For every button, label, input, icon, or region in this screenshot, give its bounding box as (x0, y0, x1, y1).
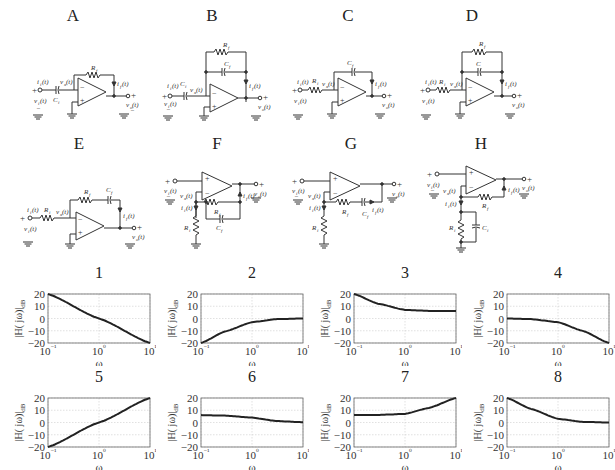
svg-text:20: 20 (493, 392, 505, 404)
svg-text:−: − (468, 83, 473, 92)
svg-text:i: i (37, 78, 39, 86)
svg-text:(t): (t) (380, 80, 387, 88)
svg-text:i: i (372, 206, 374, 214)
svg-text:0: 0 (346, 313, 352, 325)
svg-text:(t): (t) (42, 78, 49, 86)
svg-text:i: i (49, 210, 51, 215)
svg-text:f: f (367, 214, 369, 219)
svg-text:i: i (167, 82, 169, 90)
svg-text:−10: −10 (487, 325, 505, 337)
y-axis-label: |H( jω)|dB (13, 299, 27, 337)
svg-text:f: f (484, 44, 486, 49)
svg-text:i: i (189, 228, 191, 233)
svg-text:(t): (t) (430, 78, 437, 86)
svg-text:+: + (205, 174, 210, 183)
svg-text:+: + (32, 85, 37, 95)
svg-text:(t): (t) (128, 212, 135, 220)
svg-text:+: + (333, 174, 338, 183)
circuit-a: + ii(t) vi(t) − vx(t) Ci Rf if(t) −+ + v… (32, 64, 139, 119)
svg-text:−: − (333, 189, 338, 198)
svg-text:20: 20 (493, 288, 505, 300)
svg-text:−: − (430, 187, 435, 195)
svg-text:−: − (469, 183, 474, 192)
svg-text:0: 0 (40, 313, 46, 325)
svg-text:i: i (425, 78, 427, 86)
svg-text:10⁻¹: 10⁻¹ (346, 448, 363, 461)
svg-text:i: i (249, 82, 251, 90)
svg-text:i: i (181, 204, 183, 212)
svg-text:+: + (427, 169, 432, 179)
plot-title: 4 (554, 264, 562, 281)
bode-plot-7: 720100−10−2010⁻¹10⁰10¹ω|H( jω)|dB (306, 362, 462, 470)
svg-text:10⁰: 10⁰ (92, 344, 106, 357)
svg-text:+: + (397, 179, 402, 189)
bode-plot-4: 420100−10−2010⁻¹10⁰10¹ω|H( jω)|dB (459, 258, 615, 366)
svg-text:f: f (111, 190, 113, 195)
svg-text:−: − (212, 89, 217, 98)
svg-text:−: − (205, 189, 210, 198)
svg-text:(t): (t) (298, 187, 305, 195)
circuit-h: + vi(t) − vx(t) ii(t) Ri Ci Rf if(t) +− … (427, 166, 535, 252)
svg-text:(t): (t) (66, 78, 73, 86)
svg-text:(t): (t) (528, 184, 535, 192)
y-axis-label: |H( jω)|dB (166, 299, 180, 337)
svg-text:+: + (468, 96, 473, 105)
svg-text:i: i (487, 228, 489, 233)
svg-text:i: i (317, 81, 319, 86)
svg-text:(t): (t) (314, 204, 321, 212)
svg-text:i: i (505, 80, 507, 88)
svg-text:(t): (t) (170, 100, 177, 108)
svg-text:10⁰: 10⁰ (92, 448, 106, 461)
svg-text:−: − (36, 105, 41, 113)
x-axis-label: ω (401, 461, 408, 470)
svg-text:(t): (t) (518, 101, 525, 109)
x-axis-label: ω (248, 461, 255, 470)
svg-text:f: f (352, 63, 354, 68)
svg-text:f: f (221, 228, 223, 233)
svg-text:(t): (t) (328, 80, 335, 88)
svg-text:+: + (387, 90, 392, 100)
svg-text:0: 0 (499, 313, 505, 325)
svg-text:i: i (185, 84, 187, 89)
svg-text:(t): (t) (196, 86, 203, 94)
svg-text:(t): (t) (302, 78, 309, 86)
svg-text:10⁰: 10⁰ (398, 448, 412, 461)
y-axis-label: |H( jω)|dB (319, 299, 333, 337)
bode-plot-8: 820100−10−2010⁻¹10⁰10¹ω|H( jω)|dB (459, 362, 615, 470)
svg-text:+: + (78, 228, 83, 237)
x-axis-label: ω (95, 461, 102, 470)
svg-text:i: i (508, 186, 510, 194)
svg-text:−: − (294, 193, 299, 201)
svg-text:+: + (469, 168, 474, 177)
svg-text:10: 10 (34, 300, 46, 312)
svg-text:−10: −10 (334, 325, 352, 337)
circuit-g: + vi(t) − vx(t) ii(t) Ri Rf Cf if(t) +− … (292, 172, 405, 248)
svg-text:(t): (t) (314, 192, 321, 200)
y-axis-label: |H( jω)|dB (13, 403, 27, 441)
svg-text:10: 10 (340, 404, 352, 416)
svg-text:+: + (292, 176, 297, 186)
svg-text:(t): (t) (62, 208, 69, 216)
y-axis-label: |H( jω)|dB (472, 299, 486, 337)
svg-text:(t): (t) (186, 204, 193, 212)
svg-text:−: − (130, 107, 135, 115)
svg-text:f: f (229, 64, 231, 69)
svg-text:−: − (166, 106, 171, 114)
svg-text:(t): (t) (428, 97, 435, 105)
svg-text:f: f (228, 45, 230, 50)
svg-text:10⁻¹: 10⁻¹ (193, 448, 210, 461)
plot-title: 2 (248, 264, 256, 281)
plot-title: 8 (554, 368, 562, 385)
svg-text:(t): (t) (30, 225, 37, 233)
magnitude-curve (354, 398, 456, 415)
svg-text:20: 20 (34, 288, 46, 300)
y-axis-label: |H( jω)|dB (166, 403, 180, 441)
svg-text:0: 0 (40, 417, 46, 429)
svg-text:i: i (309, 204, 311, 212)
svg-text:10⁰: 10⁰ (245, 344, 259, 357)
svg-text:0: 0 (499, 417, 505, 429)
circuit-diagrams: + ii(t) vi(t) − vx(t) Ci Rf if(t) −+ + v… (0, 0, 615, 260)
svg-text:10: 10 (187, 404, 199, 416)
svg-text:+: + (340, 96, 345, 105)
svg-text:i: i (445, 200, 447, 208)
